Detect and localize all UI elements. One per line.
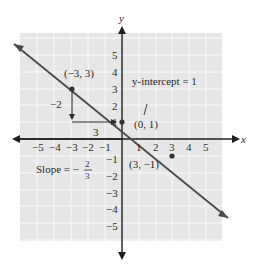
rise-label: −2 <box>50 98 62 110</box>
x-axis-label: x <box>240 133 246 145</box>
x-tick: 2 <box>153 141 159 153</box>
slope-denominator: 3 <box>85 171 90 181</box>
point-3-neg1 <box>169 153 174 158</box>
y-tick: −1 <box>106 153 118 165</box>
x-tick: −5 <box>32 141 44 153</box>
x-tick: −2 <box>82 141 94 153</box>
x-tick: −3 <box>66 141 78 153</box>
point-label-0-1: (0, 1) <box>134 118 158 131</box>
grid-background <box>20 33 222 241</box>
y-tick: 2 <box>112 100 118 112</box>
y-tick: 3 <box>112 83 118 95</box>
coordinate-plane-figure: y x −5 −4 −3 −2 −1 1 2 3 4 5 1 2 3 4 5 −… <box>0 0 253 268</box>
y-tick: −2 <box>106 170 118 182</box>
y-tick: −4 <box>106 203 118 215</box>
run-label: 3 <box>93 126 99 138</box>
y-intercept-label: y-intercept = 1 <box>132 75 197 87</box>
y-tick: 5 <box>112 49 118 61</box>
slope-label: Slope = − <box>36 163 79 175</box>
x-tick: −1 <box>99 141 111 153</box>
x-tick: 3 <box>169 141 175 153</box>
x-tick: 5 <box>203 141 209 153</box>
x-tick: −4 <box>49 141 61 153</box>
y-tick: 4 <box>112 66 118 78</box>
y-tick: 1 <box>112 116 118 128</box>
point-label-neg3-3: (−3, 3) <box>64 67 94 80</box>
y-tick: −5 <box>106 220 118 232</box>
x-tick: 4 <box>186 141 192 153</box>
y-axis-label: y <box>118 12 124 24</box>
slope-numerator: 2 <box>85 159 90 169</box>
point-neg3-3 <box>69 86 74 91</box>
point-label-3-neg1: (3, −1) <box>129 158 159 171</box>
x-tick: 1 <box>136 141 142 153</box>
point-0-1 <box>119 119 124 124</box>
y-tick: −3 <box>106 187 118 199</box>
